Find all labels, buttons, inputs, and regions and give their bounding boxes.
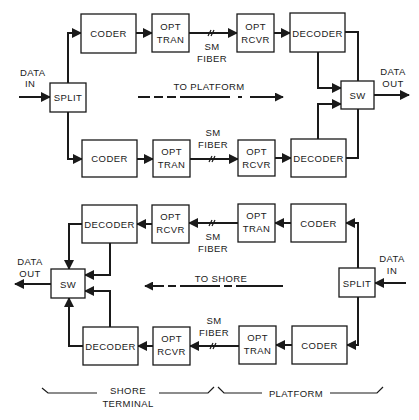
fiber-link-diagram: DATA IN SPLIT CODER OPT TRAN SM FIBER OP… — [0, 0, 419, 420]
opt-rcvr-block — [237, 14, 274, 52]
upper-data-in-label: DATA — [20, 67, 46, 78]
lower-path-1: CODER OPT TRAN SM FIBER OPT RCVR DECODER — [82, 204, 346, 254]
lower-data-out-label-2: OUT — [19, 268, 40, 279]
decoder-2-bypass-line — [346, 109, 358, 158]
lower-data-in-label: DATA — [379, 253, 405, 264]
svg-text:FIBER: FIBER — [198, 139, 228, 150]
decoder-2-to-switch-side-arrow — [85, 291, 110, 327]
svg-text:SPLIT: SPLIT — [343, 278, 371, 289]
svg-text:RCVR: RCVR — [242, 159, 271, 170]
decoder-1-to-switch-top-arrow — [69, 224, 82, 269]
svg-text:DECODER: DECODER — [292, 28, 342, 39]
svg-text:FIBER: FIBER — [199, 327, 229, 338]
svg-text:OPT: OPT — [247, 332, 268, 343]
svg-text:SW: SW — [349, 90, 365, 101]
split-to-coder-2-arrow — [68, 112, 82, 159]
svg-text:SM: SM — [205, 127, 220, 138]
svg-text:TRAN: TRAN — [157, 34, 184, 45]
svg-text:OPT: OPT — [160, 211, 181, 222]
svg-text:CODER: CODER — [90, 28, 126, 39]
decoder-2-to-switch-arrow — [318, 104, 341, 139]
svg-text:SM: SM — [206, 315, 221, 326]
split-to-coder-1-arrow — [68, 33, 81, 83]
to-shore-label: TO SHORE — [195, 273, 248, 284]
upper-data-in-label-2: IN — [25, 78, 35, 89]
upper-path-1: CODER OPT TRAN SM FIBER OPT RCVR DECODER — [81, 13, 345, 64]
svg-text:OPT: OPT — [246, 210, 267, 221]
svg-text:RCVR: RCVR — [156, 224, 185, 235]
svg-text:TRAN: TRAN — [244, 345, 271, 356]
svg-text:CODER: CODER — [300, 218, 336, 229]
lower-data-in-label-2: IN — [387, 265, 397, 276]
opt-tran-block — [152, 14, 189, 52]
decoder-1-to-switch-arrow — [318, 52, 341, 88]
lower-data-out-label: DATA — [17, 256, 43, 267]
upper-data-out-label-2: OUT — [382, 78, 403, 89]
svg-text:DECODER: DECODER — [84, 219, 134, 230]
svg-text:TRAN: TRAN — [158, 159, 185, 170]
svg-text:CODER: CODER — [301, 340, 337, 351]
svg-text:CODER: CODER — [91, 153, 127, 164]
lower-split-block: SPLIT — [339, 268, 375, 297]
upper-split-block: SPLIT — [50, 83, 86, 112]
svg-text:SW: SW — [60, 279, 76, 290]
upper-data-out-label: DATA — [380, 66, 406, 77]
to-platform-label: TO PLATFORM — [173, 81, 244, 92]
lower-path-2: CODER OPT TRAN SM FIBER OPT RCVR DECODER — [83, 315, 347, 365]
svg-text:TRAN: TRAN — [243, 223, 270, 234]
section-braces: SHORE TERMINAL PLATFORM — [42, 385, 383, 409]
svg-text:SPLIT: SPLIT — [54, 92, 82, 103]
terminal-label: TERMINAL — [102, 398, 153, 409]
platform-label: PLATFORM — [269, 388, 323, 399]
svg-text:FIBER: FIBER — [198, 243, 228, 254]
svg-text:OPT: OPT — [245, 21, 266, 32]
upper-switch-block: SW — [341, 81, 374, 109]
svg-text:DECODER: DECODER — [85, 341, 135, 352]
svg-text:DECODER: DECODER — [293, 153, 343, 164]
svg-text:OPT: OPT — [161, 146, 182, 157]
svg-text:OPT: OPT — [160, 21, 181, 32]
svg-text:SM: SM — [204, 41, 219, 52]
svg-text:RCVR: RCVR — [157, 346, 186, 357]
lower-switch-block: SW — [51, 269, 85, 298]
upper-link: DATA IN SPLIT CODER OPT TRAN SM FIBER OP… — [19, 13, 409, 177]
shore-label: SHORE — [110, 385, 146, 396]
svg-text:RCVR: RCVR — [241, 34, 270, 45]
svg-text:SM: SM — [205, 231, 220, 242]
svg-text:OPT: OPT — [246, 146, 267, 157]
upper-path-2: CODER OPT TRAN SM FIBER OPT RCVR DECODER — [82, 127, 346, 177]
lower-link: DATA IN SPLIT CODER OPT TRAN SM FIBER OP… — [15, 204, 406, 365]
decoder-2-to-switch-bottom-arrow — [69, 298, 83, 346]
split-to-coder-1-arrow — [346, 223, 358, 268]
decoder-1-to-switch-side-arrow — [85, 243, 110, 275]
split-to-coder-2-arrow — [347, 297, 358, 345]
svg-text:FIBER: FIBER — [197, 53, 227, 64]
svg-text:OPT: OPT — [161, 333, 182, 344]
decoder-1-bypass-line — [345, 32, 358, 81]
